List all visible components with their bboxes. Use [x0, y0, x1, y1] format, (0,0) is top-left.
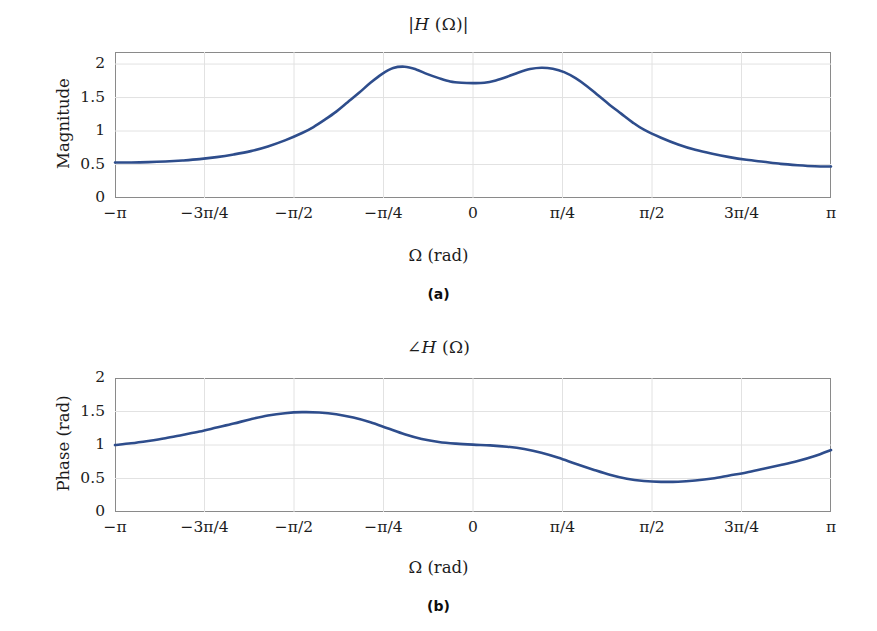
- x-tick-label: π/4: [513, 204, 613, 222]
- x-axis-label-phase: Ω (rad): [0, 558, 877, 577]
- y-tick-label: 1.5: [59, 88, 105, 106]
- x-tick-label: π/4: [513, 518, 613, 536]
- x-tick-label: 3π/4: [692, 518, 792, 536]
- plot-canvas-magnitude: [115, 52, 831, 198]
- x-tick-label: π/2: [602, 518, 702, 536]
- x-tick-label: −π/4: [334, 204, 434, 222]
- x-tick-label: −π/2: [244, 204, 344, 222]
- x-tick-label: π: [781, 204, 877, 222]
- y-tick-label: 2: [59, 368, 105, 386]
- x-tick-label: −π/2: [244, 518, 344, 536]
- x-tick-label: −3π/4: [155, 518, 255, 536]
- chart-title-phase: ∠H (Ω): [0, 337, 877, 357]
- x-tick-label: π/2: [602, 204, 702, 222]
- gridlines-magnitude: [115, 52, 831, 198]
- y-tick-label: 1: [59, 435, 105, 453]
- y-tick-label: 1: [59, 121, 105, 139]
- y-tick-label: 2: [59, 54, 105, 72]
- figure-root: |H (Ω)| Magnitude 00.511.52 −π−3π/4−π/2−…: [0, 0, 877, 631]
- y-tick-label: 0.5: [59, 155, 105, 173]
- x-tick-label: −3π/4: [155, 204, 255, 222]
- x-tick-label: −π: [65, 204, 165, 222]
- x-tick-label: 0: [423, 518, 523, 536]
- subcaption-a: (a): [0, 286, 877, 302]
- x-tick-label: π: [781, 518, 877, 536]
- plot-area-magnitude: [115, 52, 831, 198]
- x-tick-label: −π: [65, 518, 165, 536]
- x-tick-label: 0: [423, 204, 523, 222]
- chart-title-magnitude: |H (Ω)|: [0, 14, 877, 34]
- x-tick-label: 3π/4: [692, 204, 792, 222]
- panel-magnitude: |H (Ω)| Magnitude 00.511.52 −π−3π/4−π/2−…: [0, 0, 877, 320]
- subcaption-b: (b): [0, 598, 877, 614]
- panel-phase: ∠H (Ω) Phase (rad) 00.511.52 −π−3π/4−π/2…: [0, 320, 877, 631]
- y-tick-label: 1.5: [59, 402, 105, 420]
- x-axis-label-magnitude: Ω (rad): [0, 246, 877, 265]
- x-tick-label: −π/4: [334, 518, 434, 536]
- y-tick-label: 0.5: [59, 469, 105, 487]
- plot-canvas-phase: [115, 378, 831, 512]
- plot-area-phase: [115, 378, 831, 512]
